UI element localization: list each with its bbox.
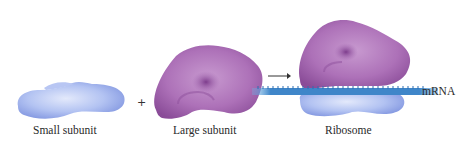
ribosome-assembly-diagram: +: [0, 0, 471, 146]
large-subunit-label: Large subunit: [173, 124, 236, 136]
arrow-icon: [268, 73, 291, 79]
ribosome-large-subunit-shape: [299, 20, 410, 89]
mrna-label: mRNA: [422, 85, 455, 97]
large-subunit-shape: [154, 45, 262, 118]
small-subunit-label: Small subunit: [33, 124, 97, 136]
ribosome-label: Ribosome: [325, 124, 372, 136]
small-subunit-shape: [18, 82, 125, 119]
plus-sign: +: [137, 96, 146, 109]
mrna-strand: [252, 86, 438, 95]
